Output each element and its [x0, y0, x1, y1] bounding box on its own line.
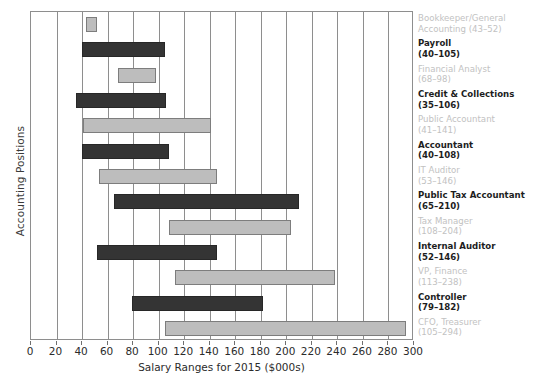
gridline [261, 12, 262, 339]
bar[interactable] [76, 93, 167, 108]
category-label-name: IT Auditor [418, 165, 540, 176]
gridline [286, 12, 287, 339]
category-label: Controller(79–182) [418, 292, 540, 313]
x-axis-tick-label: 300 [398, 345, 428, 357]
category-label: VP, Finance(113–238) [418, 266, 540, 287]
category-label: Public Accountant(41–141) [418, 114, 540, 135]
gridline [312, 12, 313, 339]
category-label-name: Financial Analyst [418, 64, 540, 75]
category-label-range: (52–146) [418, 252, 540, 263]
category-label: Public Tax Accountant(65–210) [418, 190, 540, 211]
category-label-name: Public Accountant [418, 114, 540, 125]
category-label-range: (68–98) [418, 74, 540, 85]
category-label-range: (108–204) [418, 226, 540, 237]
plot-area [30, 11, 413, 340]
category-label: Credit & Collections(35–106) [418, 89, 540, 110]
bar[interactable] [83, 118, 211, 133]
y-axis-title: Accounting Positions [14, 91, 26, 271]
gridline [363, 12, 364, 339]
category-label: Financial Analyst(68–98) [418, 64, 540, 85]
bar[interactable] [175, 270, 335, 285]
category-label-range: (41–141) [418, 125, 540, 136]
bar[interactable] [99, 169, 218, 184]
category-label: Tax Manager(108–204) [418, 216, 540, 237]
category-label-range: (40–108) [418, 150, 540, 161]
bar[interactable] [82, 42, 165, 57]
bar[interactable] [114, 194, 299, 209]
category-label: CFO, Treasurer(105–294) [418, 317, 540, 338]
bar[interactable] [165, 321, 406, 336]
category-label-range: (35–106) [418, 100, 540, 111]
category-label: IT Auditor(53–146) [418, 165, 540, 186]
category-label-name: VP, Finance [418, 266, 540, 277]
gridline [82, 12, 83, 339]
gridline [57, 12, 58, 339]
category-label-name: Public Tax Accountant [418, 190, 540, 201]
gridline [235, 12, 236, 339]
bar[interactable] [169, 220, 292, 235]
category-label-range: (113–238) [418, 277, 540, 288]
category-label-name: Credit & Collections [418, 89, 540, 100]
category-label-name: Accountant [418, 140, 540, 151]
category-label-name: CFO, Treasurer [418, 317, 540, 328]
category-label: Bookkeeper/GeneralAccounting (43–52) [418, 13, 540, 34]
category-labels: Bookkeeper/GeneralAccounting (43–52)Payr… [418, 11, 540, 340]
bar[interactable] [86, 17, 97, 32]
bar[interactable] [97, 245, 217, 260]
category-label-name: Controller [418, 292, 540, 303]
category-label-range: (79–182) [418, 302, 540, 313]
category-label-range: (53–146) [418, 176, 540, 187]
bar[interactable] [82, 144, 169, 159]
category-label-name: Internal Auditor [418, 241, 540, 252]
x-axis-title: Salary Ranges for 2015 ($000s) [30, 361, 413, 373]
category-label-name: Tax Manager [418, 216, 540, 227]
bar[interactable] [118, 68, 156, 83]
category-label-range: (40–105) [418, 49, 540, 60]
category-label: Internal Auditor(52–146) [418, 241, 540, 262]
category-label: Payroll(40–105) [418, 38, 540, 59]
category-label-name: Bookkeeper/General [418, 13, 540, 24]
category-label-range: Accounting (43–52) [418, 24, 540, 35]
gridline [388, 12, 389, 339]
category-label: Accountant(40–108) [418, 140, 540, 161]
category-label-range: (105–294) [418, 327, 540, 338]
gridline [337, 12, 338, 339]
category-label-range: (65–210) [418, 201, 540, 212]
salary-range-chart: Accounting Positions 0204060801001201401… [0, 0, 540, 378]
category-label-name: Payroll [418, 38, 540, 49]
bar[interactable] [132, 296, 263, 311]
